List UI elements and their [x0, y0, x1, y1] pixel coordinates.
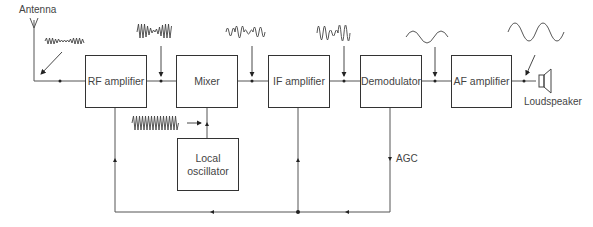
- antenna-label: Antenna: [19, 4, 56, 15]
- waveform-local-oscillator: [132, 116, 179, 130]
- antenna-icon: [30, 18, 38, 81]
- block-local-oscillator: Local oscillator: [177, 138, 239, 191]
- agc-label: AGC: [396, 153, 418, 164]
- block-mixer: Mixer: [176, 55, 238, 108]
- waveform-antenna: [45, 38, 84, 44]
- waveform-if-output: [317, 25, 350, 41]
- block-if-amplifier: IF amplifier: [268, 55, 330, 108]
- waveform-demod-output: [406, 31, 448, 43]
- block-rf-amplifier: RF amplifier: [85, 55, 147, 108]
- loudspeaker-icon: [539, 69, 551, 93]
- waveform-rf-output: [137, 24, 172, 38]
- loudspeaker-label: Loudspeaker: [524, 96, 582, 107]
- block-af-amplifier: AF amplifier: [451, 55, 512, 108]
- waveform-mixer-output: [226, 26, 265, 38]
- waveform-af-output: [508, 23, 564, 41]
- diagram-wiring: [0, 0, 593, 227]
- block-demodulator: Demodulator: [360, 55, 422, 108]
